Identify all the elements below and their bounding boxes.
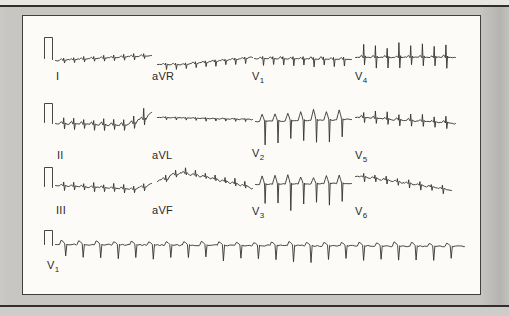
trace-aVF-row3 [158,168,253,189]
calibration-pulse-row3 [45,168,53,188]
trace-V6-row3 [356,173,452,193]
lead-label-II: II [57,149,64,161]
trace-V1-row1 [255,57,352,67]
trace-V2-row2 [256,109,352,145]
lead-label-V6: V6 [355,205,367,220]
lead-label-aVF: aVF [152,204,173,216]
trace-III-row3 [56,182,152,193]
lead-label-V4: V4 [355,70,367,85]
figure-top-rule [0,5,509,7]
trace-II-row2 [56,108,152,130]
lead-label-V3: V3 [252,205,264,220]
trace-V5-row2 [356,111,456,129]
scanned-page-background: IaVRV1V4IIaVLV2V5IIIaVFV3V6V1 [0,0,509,316]
trace-I-row1 [56,54,152,63]
page-bottom-margin [0,307,509,316]
lead-label-III: III [56,204,66,216]
lead-label-I: I [56,70,59,82]
trace-V4-row1 [356,43,456,69]
lead-label-aVL: aVL [152,149,172,161]
calibration-pulse-row4 [45,231,53,246]
lead-label-V5: V5 [355,149,367,164]
lead-label-V1: V1 [47,259,59,274]
lead-label-aVR: aVR [152,70,174,82]
calibration-pulse-row1 [45,38,53,60]
trace-aVL-row2 [158,117,253,122]
lead-label-V1: V1 [252,70,264,85]
trace-aVR-row1 [158,57,253,70]
ecg-figure-panel: IaVRV1V4IIaVLV2V5IIIaVFV3V6V1 [22,15,481,295]
calibration-pulse-row2 [45,104,53,124]
trace-V1-row4 [56,240,465,262]
trace-V3-row3 [256,175,352,211]
lead-label-V2: V2 [252,147,264,162]
